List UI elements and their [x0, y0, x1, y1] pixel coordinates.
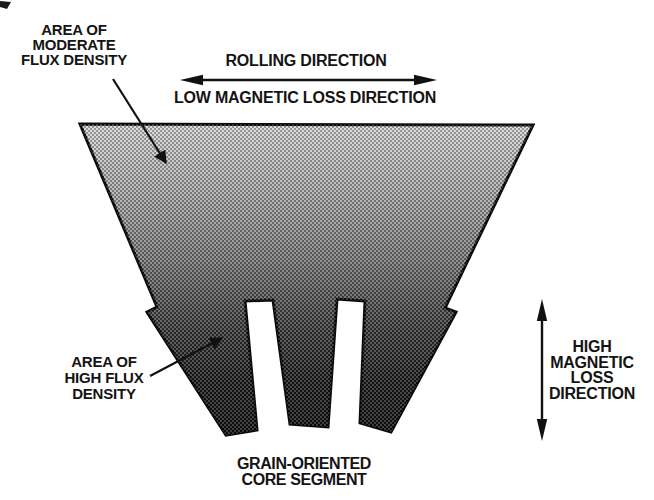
scan-artifact — [0, 1, 11, 9]
high-magnetic-loss-label: HIGH MAGNETIC LOSS DIRECTION — [549, 339, 635, 401]
high-loss-line-3: LOSS — [549, 370, 635, 386]
arrow-left-head — [180, 75, 203, 85]
caption-line-1: GRAIN-ORIENTED — [237, 456, 371, 472]
rolling-direction-label: ROLLING DIRECTION — [225, 53, 386, 69]
low-magnetic-loss-label: LOW MAGNETIC LOSS DIRECTION — [174, 90, 436, 106]
moderate-flux-line-2: MODERATE — [21, 37, 127, 52]
high-magnetic-loss-arrow — [537, 299, 547, 441]
moderate-flux-line-1: AREA OF — [21, 22, 127, 37]
caption-label: GRAIN-ORIENTED CORE SEGMENT — [237, 456, 371, 487]
moderate-flux-line-3: FLUX DENSITY — [21, 52, 127, 67]
caption-line-2: CORE SEGMENT — [237, 472, 371, 488]
high-flux-line-3: DENSITY — [64, 386, 143, 402]
high-flux-line-1: AREA OF — [64, 354, 143, 370]
high-loss-line-4: DIRECTION — [549, 386, 635, 402]
high-loss-line-1: HIGH — [549, 339, 635, 355]
arrow-right-head — [414, 75, 437, 85]
halftone-texture — [80, 124, 533, 435]
moderate-flux-label: AREA OF MODERATE FLUX DENSITY — [21, 22, 127, 67]
core-segment-figure: AREA OF MODERATE FLUX DENSITY ROLLING DI… — [0, 0, 654, 500]
rolling-direction-arrow — [180, 75, 437, 85]
arrow-down-head — [537, 419, 547, 441]
high-flux-label: AREA OF HIGH FLUX DENSITY — [64, 354, 143, 402]
core-segment-shape — [80, 124, 533, 435]
arrow-up-head — [537, 299, 547, 321]
high-flux-line-2: HIGH FLUX — [64, 370, 143, 386]
high-loss-line-2: MAGNETIC — [549, 355, 635, 371]
diagram-canvas — [0, 0, 654, 500]
